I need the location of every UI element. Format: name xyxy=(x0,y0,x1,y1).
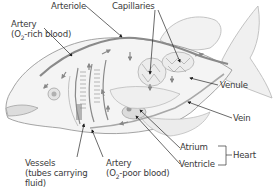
heart-bracket xyxy=(218,146,232,165)
label-artery-poor: Artery (O2-poor blood) xyxy=(106,158,169,182)
label-vein: Vein xyxy=(233,113,251,123)
label-heart: Heart xyxy=(233,150,256,160)
label-arteriole: Arteriole xyxy=(51,1,86,11)
label-ventricle: Ventricle xyxy=(179,159,215,169)
label-vessels: Vessels (tubes carrying fluid) xyxy=(25,158,87,188)
label-atrium: Atrium xyxy=(180,142,208,152)
label-venule: Venule xyxy=(220,80,248,90)
label-capillaries: Capillaries xyxy=(112,1,155,11)
label-artery-rich: Artery (O2-rich blood) xyxy=(11,19,71,43)
